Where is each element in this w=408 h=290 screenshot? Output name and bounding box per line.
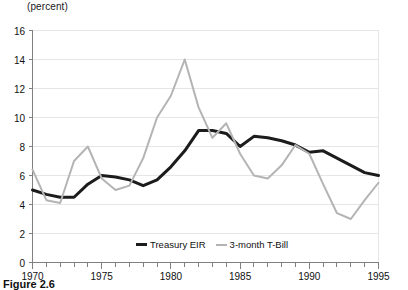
- legend-swatch-treasury-eir: [136, 243, 147, 246]
- y-tick-label-14: 14: [3, 54, 25, 65]
- y-tick-label-16: 16: [3, 25, 25, 36]
- y-tick-label-2: 2: [3, 228, 25, 239]
- x-tick-label-1980: 1980: [160, 271, 182, 282]
- y-tick-label-10: 10: [3, 112, 25, 123]
- legend-swatch-3-month-t-bill: [216, 244, 227, 246]
- y-tick-label-6: 6: [3, 170, 25, 181]
- y-tick-label-12: 12: [3, 83, 25, 94]
- y-axis-unit-label: (percent): [27, 1, 68, 12]
- legend-item-3-month-t-bill: 3-month T-Bill: [216, 240, 288, 250]
- legend-label-treasury-eir: Treasury EIR: [150, 240, 206, 250]
- x-tick-label-1985: 1985: [229, 271, 251, 282]
- y-tick-label-0: 0: [3, 257, 25, 268]
- legend-label-3-month-t-bill: 3-month T-Bill: [230, 240, 288, 250]
- chart-container: (percent) 0246810121416 1970197519801985…: [0, 0, 408, 290]
- x-tick-label-1990: 1990: [298, 271, 320, 282]
- y-tick-label-4: 4: [3, 199, 25, 210]
- chart-legend: Treasury EIR 3-month T-Bill: [133, 239, 291, 251]
- legend-item-treasury-eir: Treasury EIR: [136, 240, 206, 250]
- x-tick-label-1995: 1995: [367, 271, 389, 282]
- x-tick-label-1975: 1975: [91, 271, 113, 282]
- figure-caption: Figure 2.6: [3, 278, 55, 290]
- y-tick-label-8: 8: [3, 141, 25, 152]
